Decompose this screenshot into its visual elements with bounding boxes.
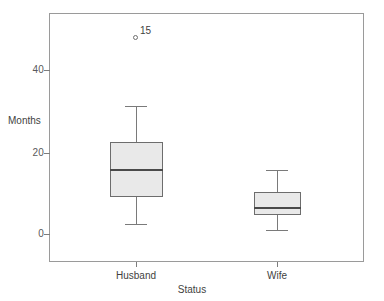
y-tick-mark-40 (44, 70, 50, 71)
x-tick-mark-wife (277, 262, 278, 267)
x-tick-label-husband: Husband (116, 270, 156, 281)
whisker-lower-cap (125, 224, 147, 225)
box-plot-chart: Months 40 20 0 Husband Wife Status 15 (0, 0, 384, 301)
outlier-label: 15 (140, 25, 151, 36)
y-axis-title: Months (8, 115, 41, 126)
y-tick-mark-0 (44, 234, 50, 235)
whisker-upper-cap (125, 106, 147, 107)
x-tick-mark-husband (136, 262, 137, 267)
y-tick-label-20: 20 (32, 147, 44, 158)
x-axis-title: Status (0, 284, 384, 295)
median-line-husband (110, 169, 163, 171)
y-tick-label-40: 40 (32, 64, 44, 75)
box-wife (254, 192, 301, 215)
median-line-wife (254, 207, 301, 209)
y-tick-mark-20 (44, 153, 50, 154)
outlier-point (133, 35, 138, 40)
whisker-upper-line (136, 106, 137, 142)
y-tick-label-0: 0 (38, 228, 44, 239)
whisker-lower-line (277, 215, 278, 230)
whisker-upper-cap (266, 170, 288, 171)
x-tick-label-wife: Wife (267, 270, 287, 281)
whisker-lower-cap (266, 230, 288, 231)
plot-area-frame (49, 13, 364, 262)
whisker-lower-line (136, 197, 137, 224)
whisker-upper-line (277, 170, 278, 192)
